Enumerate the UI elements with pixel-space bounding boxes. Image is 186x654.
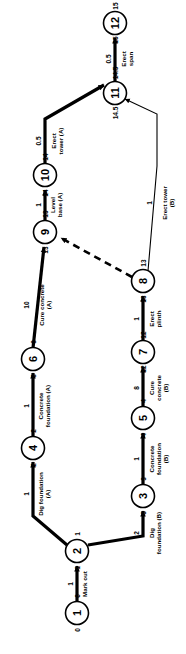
- activity-label-concrete-foundation-b: Concrete: [148, 445, 155, 472]
- activity-label-cure-concrete-b-line2: concrete: [155, 375, 162, 401]
- node-12-early: 15: [112, 2, 119, 10]
- duration-level-base-a: 1: [35, 203, 42, 207]
- edge-erect-tower-a: [45, 85, 104, 164]
- activity-label-erect-tower-a: Erect: [50, 133, 57, 148]
- node-2-early: 1: [74, 532, 81, 536]
- duration-mark-out: 1: [67, 582, 74, 586]
- activity-label-concrete-foundation-a: Concrete: [37, 392, 44, 419]
- node-3-number: 3: [137, 493, 149, 499]
- activity-label-dig-foundation-a: Dig foundation: [37, 472, 44, 516]
- node-7-late: 12: [140, 365, 147, 373]
- node-8-late: 13: [140, 295, 147, 303]
- activity-label-cure-concrete-b-line3: (B): [162, 384, 169, 393]
- node-4-number: 4: [27, 444, 39, 451]
- node-1-early: 0: [74, 594, 81, 598]
- node-5-number: 5: [137, 415, 149, 421]
- activity-label-cure-concrete-a-line2: (A): [45, 301, 52, 310]
- activity-label-mark-out: Mark out: [81, 571, 88, 597]
- duration-erect-span: 0.5: [105, 54, 112, 63]
- node-5-late: 4: [140, 433, 147, 437]
- node-5-early: 4: [140, 399, 147, 403]
- edge-dummy-8-9: [61, 238, 132, 277]
- duration-erect-tower-a: 0.5: [35, 136, 42, 145]
- edge-erect-tower-b: [125, 99, 157, 271]
- activity-label-erect-plinth-line2: plinth: [155, 310, 162, 327]
- node-10-early: 14: [42, 153, 49, 161]
- node-11-early: 14.5: [112, 66, 119, 79]
- node-3-late: 3: [140, 511, 147, 515]
- duration-concrete-foundation-a: 1: [23, 404, 30, 408]
- node-12[interactable]: 12 15 15: [104, 2, 127, 44]
- activity-label-erect-span-line2: span: [127, 52, 134, 67]
- node-9-late: 13: [42, 246, 49, 254]
- node-11-number: 11: [109, 87, 121, 99]
- activity-label-dig-foundation-a-line2: (A): [44, 490, 51, 499]
- node-6-number: 6: [27, 356, 39, 362]
- node-7-number: 7: [137, 349, 149, 355]
- node-9-early: 13: [42, 210, 49, 218]
- node-2-late: 1: [74, 566, 81, 570]
- activity-label-erect-tower-b: Erect tower: [161, 186, 168, 220]
- node-7-early: 12: [140, 331, 147, 339]
- node-12-late: 15: [112, 36, 119, 44]
- activity-label-erect-plinth: Erect: [148, 311, 155, 326]
- activity-label-concrete-foundation-a-line2: foundation (A): [44, 385, 51, 427]
- activity-label-dig-foundation-b: Dig: [148, 528, 155, 538]
- duration-erect-plinth: 1: [133, 317, 140, 321]
- duration-erect-tower-b: 1: [146, 201, 153, 205]
- edge-dig-foundation-b: [88, 511, 143, 545]
- activity-label-erect-tower-b-line2: (B): [168, 199, 175, 208]
- node-12-number: 12: [109, 17, 121, 29]
- node-8-number: 8: [137, 278, 149, 284]
- node-9-number: 9: [39, 229, 51, 235]
- activity-label-erect-span: Erect: [120, 51, 127, 66]
- node-11-late: 14.5: [112, 106, 119, 119]
- node-1-number: 1: [71, 610, 83, 616]
- node-10-number: 10: [39, 169, 51, 181]
- activity-label-dig-foundation-b-line2: foundation (B): [155, 512, 162, 554]
- activity-label-level-base-a: Level: [49, 197, 56, 213]
- network-diagram: 1 0 0 2 1 1 3 3 3 4 2 2 5 4: [0, 0, 186, 654]
- node-8-early: 13: [140, 259, 147, 267]
- node-8[interactable]: 8 13 13: [132, 259, 155, 303]
- duration-dig-foundation-a: 1: [23, 492, 30, 496]
- activity-label-level-base-a-line2: base (A): [56, 193, 63, 217]
- activity-label-cure-concrete-b: Cure: [148, 380, 155, 395]
- network-diagram-canvas: 1 0 0 2 1 1 3 3 3 4 2 2 5 4: [0, 0, 186, 654]
- duration-cure-concrete-b: 8: [133, 386, 140, 390]
- node-1-late: 0: [74, 628, 81, 632]
- node-4-early: 2: [30, 429, 37, 433]
- node-3-early: 3: [140, 477, 147, 481]
- duration-cure-concrete-a: 10: [23, 301, 30, 309]
- node-6-early: 3: [30, 340, 37, 344]
- node-2[interactable]: 2 1 1: [66, 532, 89, 570]
- node-10-late: 14: [42, 189, 49, 197]
- activity-label-concrete-foundation-b-line3: (B): [162, 455, 169, 464]
- node-9[interactable]: 9 13 13: [34, 210, 57, 254]
- activity-label-cure-concrete-a: Cure concrete: [38, 284, 45, 326]
- node-4-late: 2: [30, 463, 37, 467]
- node-11[interactable]: 11 14.5 14.5: [104, 66, 127, 119]
- node-7[interactable]: 7 12 12: [132, 331, 155, 373]
- duration-concrete-foundation-b: 1: [133, 457, 140, 461]
- node-6-late: 3: [30, 374, 37, 378]
- activity-label-concrete-foundation-b-line2: foundation: [155, 443, 162, 475]
- activity-label-erect-tower-a-line2: tower (A): [57, 128, 64, 155]
- node-10[interactable]: 10 14 14: [34, 153, 57, 197]
- duration-dig-foundation-b: 2: [133, 531, 140, 535]
- node-2-number: 2: [71, 548, 83, 554]
